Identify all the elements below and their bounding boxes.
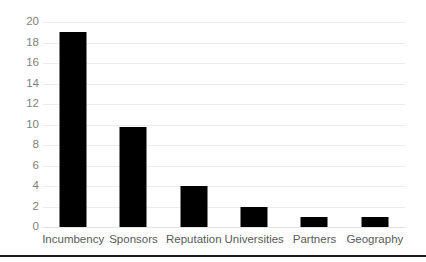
y-tick-label: 10 [0, 119, 39, 131]
x-tick-label: Geography [346, 231, 403, 247]
bar[interactable] [241, 207, 268, 228]
y-tick-label: 18 [0, 37, 39, 49]
y-axis-tick-labels: 02468101214161820 [0, 22, 39, 227]
bottom-divider-rule [0, 255, 426, 257]
y-tick-label: 8 [0, 139, 39, 151]
y-tick-label: 4 [0, 180, 39, 192]
bar-slot [345, 22, 405, 227]
y-tick-label: 0 [0, 221, 39, 233]
y-tick-label: 6 [0, 160, 39, 172]
y-tick-label: 20 [0, 16, 39, 28]
y-tick-label: 16 [0, 57, 39, 69]
bar-chart-figure: 02468101214161820 IncumbencySponsorsRepu… [0, 0, 426, 262]
bar[interactable] [180, 186, 207, 227]
bars-layer [43, 22, 405, 227]
bar[interactable] [301, 217, 328, 227]
y-tick-label: 12 [0, 98, 39, 110]
bar-slot [103, 22, 163, 227]
x-tick-label: Universities [224, 231, 283, 247]
gridline [43, 227, 405, 228]
bar-slot [284, 22, 344, 227]
x-axis-category-labels: IncumbencySponsorsReputationUniversities… [43, 231, 405, 247]
bar[interactable] [120, 127, 147, 227]
y-tick-label: 14 [0, 78, 39, 90]
bar-slot [224, 22, 284, 227]
bar-slot [43, 22, 103, 227]
x-tick-label: Reputation [166, 231, 222, 247]
x-tick-label: Partners [293, 231, 336, 247]
x-tick-label: Sponsors [109, 231, 158, 247]
bar[interactable] [361, 217, 388, 227]
bar-slot [164, 22, 224, 227]
x-tick-label: Incumbency [42, 231, 104, 247]
bar[interactable] [60, 32, 87, 227]
y-tick-label: 2 [0, 201, 39, 213]
